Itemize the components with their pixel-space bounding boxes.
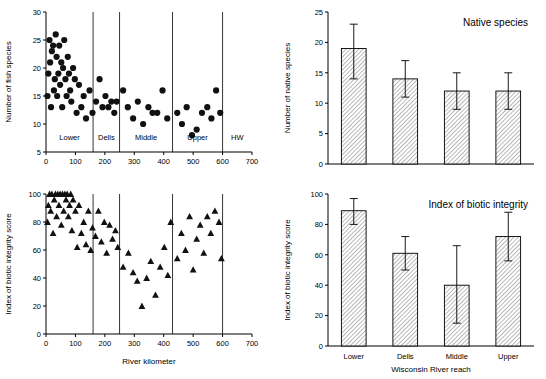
svg-text:Lower: Lower [344, 352, 365, 361]
svg-text:20: 20 [315, 311, 323, 320]
axis-label-x-river-kilometer: River kilometer [122, 357, 176, 366]
svg-text:Upper: Upper [498, 352, 519, 361]
svg-text:80: 80 [33, 218, 41, 227]
svg-text:100: 100 [310, 190, 323, 199]
svg-text:300: 300 [128, 157, 141, 166]
panel-scatter-species: 51015202530 0100200300400500600700 Lower… [0, 4, 266, 174]
svg-text:30: 30 [33, 8, 41, 17]
svg-text:0: 0 [319, 160, 323, 169]
svg-text:Dells: Dells [98, 133, 115, 142]
svg-text:25: 25 [33, 36, 41, 45]
svg-text:100: 100 [69, 157, 82, 166]
svg-text:20: 20 [33, 64, 41, 73]
svg-text:0: 0 [44, 157, 48, 166]
figure-root: 51015202530 0100200300400500600700 Lower… [0, 0, 546, 379]
svg-text:600: 600 [216, 157, 229, 166]
svg-text:80: 80 [315, 220, 323, 229]
axis-label-y-ibi-bar: Index of biotic integrity score [283, 219, 292, 321]
svg-text:40: 40 [33, 274, 41, 283]
svg-text:20: 20 [33, 302, 41, 311]
svg-text:700: 700 [246, 339, 259, 348]
svg-text:15: 15 [33, 92, 41, 101]
svg-text:40: 40 [315, 281, 323, 290]
svg-text:400: 400 [157, 157, 170, 166]
axis-label-y-species: Number of fish species [4, 41, 13, 122]
axis-label-y-native-species: Number of native species [283, 43, 292, 133]
svg-text:20: 20 [315, 38, 323, 47]
svg-text:60: 60 [33, 246, 41, 255]
panel-scatter-ibi: 020406080100 0100200300400500600700 Inde… [0, 186, 266, 376]
svg-text:300: 300 [128, 339, 141, 348]
svg-text:200: 200 [99, 339, 112, 348]
svg-text:5: 5 [37, 148, 41, 157]
svg-text:Dells: Dells [397, 352, 414, 361]
panel-title-native-species: Native species [463, 17, 528, 28]
svg-text:Middle: Middle [446, 352, 468, 361]
axis-label-y-ibi: Index of biotic integrity score [4, 213, 13, 315]
svg-text:500: 500 [187, 339, 200, 348]
svg-text:Lower: Lower [59, 133, 80, 142]
panel-bar-ibi: 020406080100 LowerDellsMiddleUpper Index… [276, 186, 546, 376]
svg-text:5: 5 [319, 129, 323, 138]
svg-text:0: 0 [44, 339, 48, 348]
bar-ibi-svg: 020406080100 LowerDellsMiddleUpper Index… [276, 186, 546, 376]
scatter-species-svg: 51015202530 0100200300400500600700 Lower… [0, 4, 266, 174]
scatter-ibi-svg: 020406080100 0100200300400500600700 Inde… [0, 186, 266, 376]
svg-text:15: 15 [315, 69, 323, 78]
svg-text:60: 60 [315, 251, 323, 260]
svg-text:25: 25 [315, 8, 323, 17]
svg-text:10: 10 [33, 120, 41, 129]
axis-label-x-wisconsin-river-reach: Wisconsin River reach [391, 365, 471, 374]
bar-native-svg: 0510152025 Native species Number of nati… [276, 4, 546, 174]
panel-bar-native-species: 0510152025 Native species Number of nati… [276, 4, 546, 174]
svg-text:100: 100 [69, 339, 82, 348]
svg-text:600: 600 [216, 339, 229, 348]
svg-text:HW: HW [231, 133, 244, 142]
svg-text:10: 10 [315, 99, 323, 108]
svg-text:100: 100 [28, 190, 41, 199]
svg-text:Upper: Upper [187, 133, 208, 142]
svg-text:Middle: Middle [135, 133, 157, 142]
svg-text:0: 0 [37, 330, 41, 339]
svg-text:700: 700 [246, 157, 259, 166]
svg-text:0: 0 [319, 342, 323, 351]
panel-title-ibi: Index of biotic integrity [429, 199, 529, 210]
svg-text:200: 200 [99, 157, 112, 166]
svg-text:500: 500 [187, 157, 200, 166]
svg-text:400: 400 [157, 339, 170, 348]
